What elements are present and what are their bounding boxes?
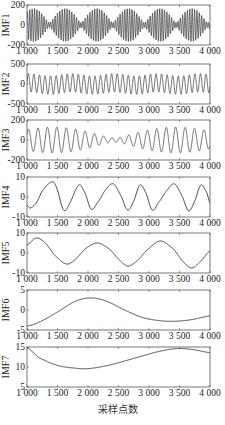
series-line-imf3 [27, 127, 210, 153]
x-tick-label: 2 000 [77, 105, 99, 115]
y-tick-label: -5 [17, 325, 25, 335]
x-tick-label: 4 000 [199, 105, 221, 115]
y-axis-label: IMF4 [0, 186, 11, 209]
panel-imf6: 1 0001 5002 0002 5003 0003 5004 000-505I… [0, 285, 221, 341]
x-tick-label: 3 000 [138, 161, 160, 171]
y-axis-label: IMF1 [0, 14, 11, 37]
y-tick-label: 200 [11, 0, 26, 10]
x-tick-label: 3 500 [169, 388, 191, 398]
x-tick-label: 1 500 [47, 388, 69, 398]
x-tick-label: 2 000 [77, 274, 99, 284]
x-tick-label: 3 000 [138, 331, 160, 341]
y-tick-label: -200 [8, 40, 26, 50]
y-tick-label: -10 [12, 268, 25, 278]
series-line-imf2 [27, 74, 210, 95]
y-tick-label: 0 [20, 79, 25, 89]
x-tick-label: 1 500 [47, 161, 69, 171]
series-line-imf6 [27, 298, 210, 326]
plot-frame [27, 290, 210, 330]
y-tick-label: -500 [8, 99, 26, 109]
y-axis-label: IMF6 [0, 299, 11, 322]
plot-frame [27, 347, 210, 387]
panel-imf7: 1 0001 5002 0002 5003 0003 5004 00051015… [0, 342, 221, 398]
x-tick-label: 1 500 [47, 105, 69, 115]
panel-imf5: 1 0001 5002 0002 5003 0003 5004 000-1001… [0, 228, 221, 284]
x-tick-label: 3 500 [169, 274, 191, 284]
y-tick-label: 0 [20, 135, 25, 145]
x-tick-label: 4 000 [199, 46, 221, 56]
x-tick-label: 3 500 [169, 331, 191, 341]
y-tick-label: 0 [20, 305, 25, 315]
y-tick-label: 15 [16, 342, 26, 352]
x-tick-label: 2 500 [108, 388, 130, 398]
x-tick-label: 4 000 [199, 388, 221, 398]
x-tick-label: 4 000 [199, 274, 221, 284]
x-tick-label: 2 500 [108, 331, 130, 341]
series-line-imf1 [27, 9, 210, 42]
x-axis-label: 采样点数 [98, 403, 138, 415]
y-tick-label: 500 [11, 59, 26, 69]
x-tick-label: 4 000 [199, 331, 221, 341]
x-tick-label: 2 000 [77, 331, 99, 341]
x-tick-label: 3 500 [169, 105, 191, 115]
y-axis-label: IMF3 [0, 129, 11, 152]
x-tick-label: 2 500 [108, 105, 130, 115]
y-axis-label: IMF2 [0, 73, 11, 96]
y-axis-label: IMF7 [0, 356, 11, 379]
series-line-imf7 [27, 348, 210, 369]
y-tick-label: 10 [16, 228, 26, 238]
plot-frame [27, 233, 210, 273]
y-tick-label: 200 [11, 115, 26, 125]
x-tick-label: 3 500 [169, 46, 191, 56]
series-line-imf5 [27, 238, 210, 268]
panel-imf1: 1 0001 5002 0002 5003 0003 5004 000-2000… [0, 0, 221, 56]
x-tick-label: 3 000 [138, 105, 160, 115]
y-tick-label: -10 [12, 212, 25, 222]
panels-group: 1 0001 5002 0002 5003 0003 5004 000-2000… [0, 0, 221, 398]
y-tick-label: 10 [16, 172, 26, 182]
x-tick-label: 1 500 [47, 274, 69, 284]
x-tick-label: 1 500 [47, 331, 69, 341]
y-tick-label: -200 [8, 155, 26, 165]
x-tick-label: 2 500 [108, 161, 130, 171]
panel-imf4: 1 0001 5002 0002 5003 0003 5004 000-1001… [0, 172, 221, 228]
y-tick-label: 0 [20, 192, 25, 202]
y-tick-label: 10 [16, 362, 26, 372]
x-tick-label: 3 500 [169, 218, 191, 228]
y-axis-label: IMF5 [0, 242, 11, 265]
x-tick-label: 2 000 [77, 161, 99, 171]
x-tick-label: 3 000 [138, 274, 160, 284]
x-tick-label: 2 500 [108, 274, 130, 284]
imf-decomposition-figure: 1 0001 5002 0002 5003 0003 5004 000-2000… [0, 0, 225, 425]
x-tick-label: 4 000 [199, 218, 221, 228]
x-tick-label: 2 500 [108, 46, 130, 56]
y-tick-label: 0 [20, 20, 25, 30]
series-line-imf4 [27, 182, 210, 211]
x-tick-label: 3 500 [169, 161, 191, 171]
panel-imf2: 1 0001 5002 0002 5003 0003 5004 000-5000… [0, 59, 221, 115]
x-tick-label: 2 000 [77, 46, 99, 56]
x-tick-label: 2 000 [77, 388, 99, 398]
x-tick-label: 1 500 [47, 218, 69, 228]
x-tick-label: 3 000 [138, 388, 160, 398]
y-tick-label: 5 [20, 382, 25, 392]
x-tick-label: 3 000 [138, 46, 160, 56]
x-tick-label: 4 000 [199, 161, 221, 171]
x-tick-label: 2 500 [108, 218, 130, 228]
x-tick-label: 3 000 [138, 218, 160, 228]
panel-imf3: 1 0001 5002 0002 5003 0003 5004 000-2000… [0, 115, 221, 171]
y-tick-label: 5 [20, 285, 25, 295]
x-tick-label: 1 500 [47, 46, 69, 56]
x-tick-label: 2 000 [77, 218, 99, 228]
y-tick-label: 0 [20, 248, 25, 258]
